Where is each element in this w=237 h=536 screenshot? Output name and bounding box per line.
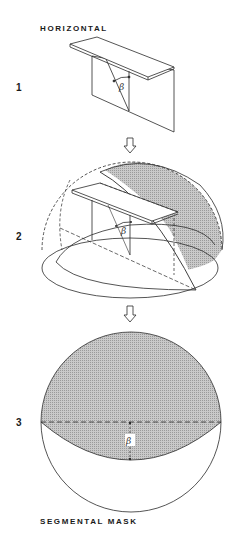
step-2-hemisphere [42,162,223,298]
beta-label-3: β [125,436,131,446]
diagram-canvas: β β [0,0,237,536]
beta-label-1: β [118,82,124,92]
step-3-segmental-mask [41,332,221,512]
step-3-caption: SEGMENTAL MASK [40,517,138,526]
step-1-number: 1 [16,82,22,93]
down-arrow-icon [124,306,136,322]
beta-label-2: β [120,226,126,236]
step-2-number: 2 [16,231,22,242]
step-1-title: HORIZONTAL [40,24,108,33]
step-3-number: 3 [16,417,22,428]
down-arrow-icon [124,138,136,153]
